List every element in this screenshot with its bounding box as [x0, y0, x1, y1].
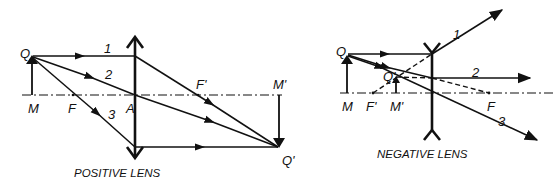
focal-point-f-negative	[488, 92, 491, 95]
image-arrow	[273, 95, 285, 148]
label-m: M	[28, 101, 39, 116]
caption-negative-lens: NEGATIVE LENS	[377, 148, 468, 160]
label-m-prime: M'	[273, 77, 287, 92]
label-q-negative: Q	[336, 44, 346, 59]
negative-lens-diagram: Q M F' M' Q' F 1 2 3 NEGATIVE LENS	[336, 10, 556, 160]
label-f-prime-negative: F'	[366, 99, 377, 114]
focal-point-f-prime-negative	[372, 92, 375, 95]
ray-number-1-negative: 1	[453, 27, 460, 42]
label-f-prime: F'	[196, 77, 207, 92]
lens-ray-diagrams: Q M F A F' M' Q' 1 2 3 POSITIVE LENS	[0, 0, 560, 183]
ray-number-2: 2	[104, 67, 113, 82]
focal-point-f-prime	[197, 94, 200, 97]
label-m-negative: M	[342, 99, 353, 114]
ray-1-negative	[348, 10, 502, 93]
ray-2-negative	[348, 55, 530, 93]
caption-positive-lens: POSITIVE LENS	[74, 167, 161, 179]
ray-number-3-negative: 3	[498, 114, 506, 129]
focal-point-f	[72, 94, 75, 97]
label-q-prime-negative: Q'	[383, 69, 396, 84]
label-f: F	[68, 101, 77, 116]
label-q: Q	[20, 46, 30, 61]
label-a: A	[125, 101, 135, 116]
ray-number-2-negative: 2	[471, 65, 480, 80]
object-arrow-negative	[341, 55, 353, 93]
ray-3-negative	[348, 56, 537, 140]
label-f-negative: F	[487, 99, 496, 114]
label-m-prime-negative: M'	[390, 99, 404, 114]
ray-number-1: 1	[104, 41, 111, 56]
label-q-prime: Q'	[282, 153, 295, 168]
positive-lens-diagram: Q M F A F' M' Q' 1 2 3 POSITIVE LENS	[20, 37, 295, 179]
ray-number-3: 3	[108, 107, 116, 122]
